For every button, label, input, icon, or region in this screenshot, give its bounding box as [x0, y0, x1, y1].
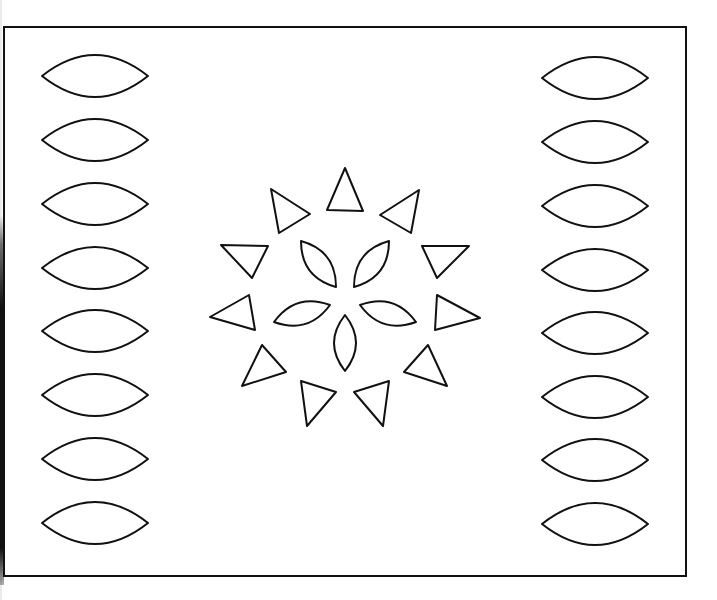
- lens-shape: [542, 121, 648, 163]
- triangle-ray: [327, 168, 363, 211]
- flower-petals: [274, 241, 416, 371]
- triangle-ray: [271, 189, 310, 233]
- triangle-ray: [404, 345, 447, 386]
- lens-shape: [42, 438, 148, 480]
- petal-right: [360, 301, 416, 325]
- lens-shape: [42, 183, 148, 225]
- lens-shape: [542, 185, 648, 227]
- triangle-ray: [301, 381, 336, 426]
- lens-shape: [42, 502, 148, 544]
- petal-bottom: [334, 315, 356, 371]
- triangle-ray: [242, 345, 286, 386]
- triangle-ray: [380, 190, 419, 233]
- lens-shape: [542, 376, 648, 418]
- lens-shape: [42, 119, 148, 161]
- outer-frame: [4, 27, 686, 576]
- lens-shape: [42, 247, 148, 289]
- left-lens-column: [42, 55, 148, 544]
- petal-left: [274, 301, 330, 325]
- triangle-ray: [354, 381, 389, 426]
- lens-shape: [542, 503, 648, 545]
- lens-shape: [42, 374, 148, 416]
- lens-shape: [542, 439, 648, 481]
- lens-shape: [42, 310, 148, 352]
- petal-upper-left: [301, 241, 336, 287]
- center-sun-motif: [210, 168, 480, 426]
- petal-upper-right: [354, 241, 389, 287]
- lens-shape: [542, 57, 648, 99]
- sun-ray-triangles: [210, 168, 480, 426]
- triangle-ray: [221, 245, 268, 278]
- lens-shape: [542, 249, 648, 291]
- triangle-ray: [435, 295, 480, 330]
- lens-shape: [42, 55, 148, 97]
- triangle-ray: [422, 246, 469, 278]
- right-lens-column: [542, 57, 648, 545]
- pattern-canvas: [0, 0, 717, 600]
- triangle-ray: [210, 295, 255, 330]
- lens-shape: [542, 312, 648, 354]
